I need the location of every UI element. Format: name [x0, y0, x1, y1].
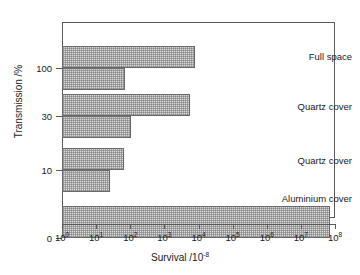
- x-tick-label-1e7: 107: [294, 231, 308, 243]
- x-tick-1e4: [199, 224, 200, 229]
- x-tick-1e3: [164, 224, 165, 229]
- x-tick-label-1e3: 103: [157, 231, 171, 243]
- bar-quartz-cover-30-lower: [62, 116, 131, 138]
- y-tick-label-0: 0: [26, 233, 52, 244]
- x-tick-label-1e5: 105: [226, 231, 240, 243]
- bar-annotation-aluminium-cover-3: Aluminium cover: [282, 193, 352, 204]
- bar-annotation-quartz-cover-1: Quartz cover: [298, 101, 352, 112]
- bar-full-space-upper: [62, 46, 195, 68]
- x-tick-1e2: [130, 224, 131, 229]
- x-tick-label-1e2: 102: [123, 231, 137, 243]
- y-tick-label-100: 100: [26, 63, 52, 74]
- x-tick-label-1e4: 104: [191, 231, 205, 243]
- bar-full-space-lower: [62, 68, 125, 90]
- x-tick-1e0: [62, 224, 63, 229]
- bar-quartz-cover-10-upper: [62, 148, 124, 170]
- x-axis-title: Survival /10-8: [0, 251, 360, 263]
- x-tick-label-1e0: 100: [55, 231, 69, 243]
- x-tick-1e5: [233, 224, 234, 229]
- x-tick-1e8: [335, 224, 336, 229]
- x-tick-1e7: [301, 224, 302, 229]
- x-axis-title-exponent: -8: [203, 251, 209, 258]
- x-axis-title-text: Survival /10: [151, 252, 203, 263]
- x-tick-label-1e8: 108: [328, 231, 342, 243]
- survival-transmission-bar-chart: Transmission /% 10030100 Full spaceQuart…: [0, 0, 360, 275]
- x-tick-1e1: [96, 224, 97, 229]
- x-tick-1e6: [267, 224, 268, 229]
- bar-quartz-cover-10-lower: [62, 170, 110, 192]
- bar-annotation-full-space-0: Full space: [309, 51, 352, 62]
- x-tick-label-1e1: 101: [89, 231, 103, 243]
- bar-quartz-cover-30-upper: [62, 94, 190, 116]
- y-tick-label-10: 10: [26, 165, 52, 176]
- y-axis-title: Transmission /%: [13, 32, 24, 172]
- bar-annotation-quartz-cover-2: Quartz cover: [298, 155, 352, 166]
- x-tick-label-1e6: 106: [260, 231, 274, 243]
- y-tick-label-30: 30: [26, 111, 52, 122]
